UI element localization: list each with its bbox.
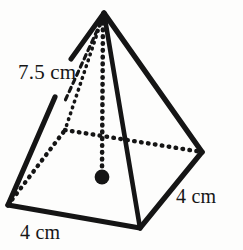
pyramid-figure: 7.5 cm 4 cm 4 cm (0, 0, 243, 250)
base-edge-right-label: 4 cm (176, 186, 216, 206)
lateral-edge-apex-left-partial (8, 97, 55, 205)
pyramid-drawing (0, 0, 243, 250)
base-edge-front-label: 4 cm (20, 222, 60, 242)
lateral-edge-apex-right (104, 13, 202, 152)
hidden-base-edge-back-right (65, 130, 202, 152)
slant-height-label: 7.5 cm (18, 62, 76, 83)
lateral-edge-apex-front (104, 13, 140, 228)
altitude-line (102, 16, 103, 172)
base-center-dot (95, 170, 110, 185)
